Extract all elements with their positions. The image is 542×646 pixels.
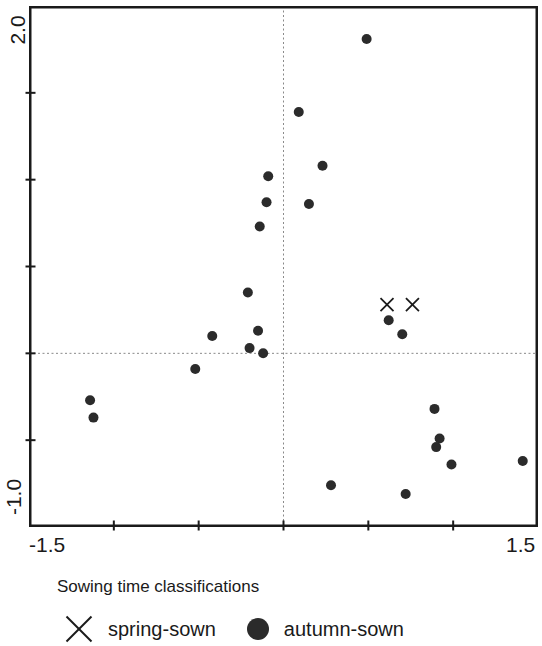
spring-sown-x-marker-icon — [64, 614, 94, 644]
data-point-autumn-sown — [318, 161, 328, 171]
data-point-autumn-sown — [384, 315, 394, 325]
data-point-autumn-sown — [294, 107, 304, 117]
data-point-autumn-sown — [326, 480, 336, 490]
y-axis-max-label: 2.0 — [7, 10, 29, 50]
legend-label-autumn-sown: autumn-sown — [284, 617, 404, 641]
x-axis-max-label: 1.5 — [506, 534, 535, 556]
data-point-autumn-sown — [85, 395, 95, 405]
autumn-sown-circle-marker-icon — [246, 617, 270, 641]
legend-item-spring-sown: spring-sown — [64, 614, 216, 644]
data-point-autumn-sown — [435, 433, 445, 443]
legend: spring-sown autumn-sown — [64, 613, 404, 645]
data-point-autumn-sown — [431, 442, 441, 452]
data-point-autumn-sown — [88, 413, 98, 423]
data-point-autumn-sown — [397, 329, 407, 339]
x-axis-min-label: -1.5 — [29, 534, 65, 556]
data-point-autumn-sown — [518, 456, 528, 466]
data-point-autumn-sown — [258, 348, 268, 358]
data-point-autumn-sown — [304, 199, 314, 209]
data-point-autumn-sown — [207, 331, 217, 341]
data-point-autumn-sown — [446, 459, 456, 469]
data-point-autumn-sown — [253, 326, 263, 336]
data-point-autumn-sown — [362, 34, 372, 44]
scatter-figure: 2.0 -1.0 -1.5 1.5 Sowing time classifica… — [0, 0, 542, 646]
legend-label-spring-sown: spring-sown — [108, 617, 216, 641]
legend-item-autumn-sown: autumn-sown — [246, 617, 404, 641]
data-point-autumn-sown — [245, 343, 255, 353]
data-point-autumn-sown — [262, 197, 272, 207]
data-point-autumn-sown — [255, 222, 265, 232]
data-point-autumn-sown — [190, 364, 200, 374]
y-axis-min-label: -1.0 — [3, 474, 25, 520]
data-point-autumn-sown — [263, 171, 273, 181]
legend-title: Sowing time classifications — [57, 577, 259, 597]
data-point-autumn-sown — [243, 288, 253, 298]
scatter-plot-canvas — [29, 6, 538, 527]
data-point-autumn-sown — [401, 489, 411, 499]
data-point-autumn-sown — [430, 404, 440, 414]
